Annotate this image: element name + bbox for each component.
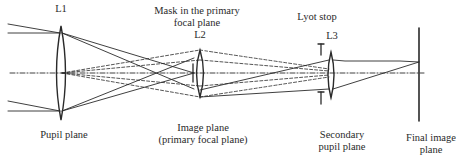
label-l2: L2 [194,29,206,41]
label-secondary-pupil-line1: Secondary [320,129,364,141]
label-image-plane-line1: Image plane [177,122,229,134]
label-pupil-plane: Pupil plane [40,129,88,141]
converging-rays [62,33,194,111]
diffracted-rays [62,50,329,97]
label-secondary-pupil-line2: pupil plane [319,141,366,153]
label-l1: L1 [55,3,67,15]
label-lyot-stop: Lyot stop [297,11,336,23]
lyot-stop [318,44,324,104]
incoming-rays [8,24,60,111]
label-final-image-line1: Final image [406,132,456,144]
label-final-image-line2: plane [420,144,443,156]
label-l3: L3 [326,30,338,42]
label-mask-line1: Mask in the primary [154,5,239,17]
relay-rays [200,60,419,97]
label-image-plane-line2: (primary focal plane) [158,134,247,146]
label-mask-line2: focal plane [174,17,220,29]
lens-l3 [328,52,334,98]
